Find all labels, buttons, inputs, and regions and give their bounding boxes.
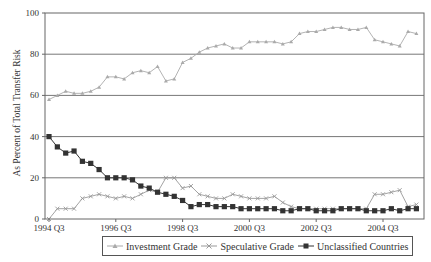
- x-marker-icon: [201, 241, 217, 251]
- y-axis-label: As Percent of Total Transfer Risk: [12, 28, 22, 198]
- svg-text:2004 Q3: 2004 Q3: [367, 223, 399, 233]
- svg-text:40: 40: [30, 132, 40, 142]
- square-marker-icon: [298, 241, 314, 251]
- legend-label: Investment Grade: [126, 241, 197, 252]
- legend-label: Speculative Grade: [220, 241, 294, 252]
- svg-text:20: 20: [30, 173, 40, 183]
- svg-text:2002 Q3: 2002 Q3: [301, 223, 333, 233]
- legend-item-unclassified-countries: Unclassified Countries: [298, 241, 408, 252]
- svg-text:1994 Q3: 1994 Q3: [33, 223, 65, 233]
- series-speculative-grade: [47, 176, 418, 221]
- gridlines: [45, 54, 424, 178]
- svg-text:1998 Q3: 1998 Q3: [167, 223, 199, 233]
- legend-item-investment-grade: Investment Grade: [107, 241, 197, 252]
- y-axis-ticks: 020406080100: [26, 8, 46, 224]
- x-axis-ticks: 1994 Q31996 Q31998 Q32000 Q32002 Q32004 …: [33, 219, 399, 233]
- legend-item-speculative-grade: Speculative Grade: [201, 241, 294, 252]
- series-unclassified-countries: [46, 134, 419, 213]
- series-investment-grade: [47, 25, 418, 101]
- svg-text:100: 100: [26, 8, 40, 18]
- svg-text:80: 80: [30, 49, 40, 59]
- legend: Investment Grade Speculative Grade Uncla…: [102, 236, 413, 256]
- svg-text:2000 Q3: 2000 Q3: [234, 223, 266, 233]
- svg-text:1996 Q3: 1996 Q3: [100, 223, 132, 233]
- svg-text:60: 60: [30, 90, 40, 100]
- plot-frame: [45, 13, 424, 219]
- legend-label: Unclassified Countries: [317, 241, 408, 252]
- line-chart: 020406080100 1994 Q31996 Q31998 Q32000 Q…: [0, 0, 431, 262]
- triangle-marker-icon: [107, 241, 123, 251]
- data-series: [46, 25, 419, 221]
